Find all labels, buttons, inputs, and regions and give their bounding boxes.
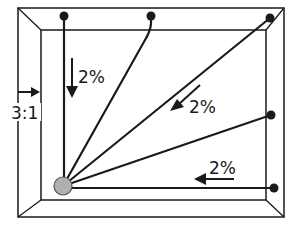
drain-hub: [54, 177, 72, 195]
slope-label-bottom: 2%: [209, 158, 236, 178]
drainage-slope-diagram: 2% 2% 2% 3:1: [0, 0, 296, 225]
bevel-top-left: [18, 8, 41, 30]
drain-line-top-right: [63, 18, 270, 186]
slope-label-left: 2%: [78, 67, 105, 87]
slope-arrow-down-head-icon: [66, 86, 78, 98]
endpoint-dot: [60, 12, 69, 21]
bevel-bottom-right: [266, 200, 284, 217]
endpoint-dot: [267, 111, 276, 120]
side-slope-arrow-head-icon: [31, 87, 40, 97]
endpoint-dot: [147, 12, 156, 21]
slope-label-diagonal: 2%: [189, 97, 216, 117]
slope-arrow-left-head-icon: [194, 173, 206, 185]
endpoint-dot: [266, 14, 275, 23]
drain-line-right-mid: [63, 115, 271, 186]
side-slope-label: 3:1: [11, 103, 38, 123]
endpoint-dot: [270, 184, 279, 193]
bevel-bottom-left: [18, 200, 41, 217]
